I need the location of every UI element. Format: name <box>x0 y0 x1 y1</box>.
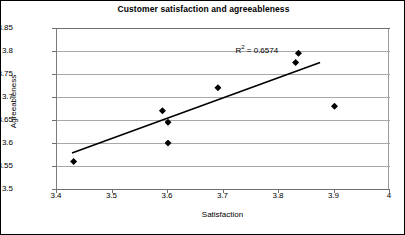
y-axis-tick-label: 3.65 <box>0 116 13 124</box>
x-axis-tick-label: 3.6 <box>147 192 187 200</box>
x-axis-title: Satisfaction <box>56 210 389 219</box>
y-axis-tick-label: 3.5 <box>0 185 13 193</box>
y-axis-tick-label: 3.6 <box>0 139 13 147</box>
plot-area: R2 = 0.6574 <box>56 28 389 189</box>
y-axis-tick-label: 3.85 <box>0 24 13 32</box>
y-axis-tick-label: 3.8 <box>0 47 13 55</box>
x-axis-tick-label: 3.9 <box>314 192 354 200</box>
y-axis-tick-label: 3.55 <box>0 162 13 170</box>
x-axis-tick-label: 3.8 <box>258 192 298 200</box>
x-axis-tick-label: 3.5 <box>92 192 132 200</box>
y-axis-tick-label: 3.7 <box>0 93 13 101</box>
x-axis-tick-label: 4 <box>369 192 405 200</box>
x-axis-tick-label: 3.4 <box>36 192 76 200</box>
trendline <box>57 28 390 189</box>
y-axis-title: Agreeableness <box>9 52 18 152</box>
r-squared-annotation: R2 = 0.6574 <box>235 44 278 55</box>
gridline <box>57 189 390 190</box>
chart-container: Customer satisfaction and agreeableness … <box>0 0 405 235</box>
y-axis-tick-label: 3.75 <box>0 70 13 78</box>
chart-title: Customer satisfaction and agreeableness <box>1 4 405 14</box>
x-axis-tick-label: 3.7 <box>203 192 243 200</box>
